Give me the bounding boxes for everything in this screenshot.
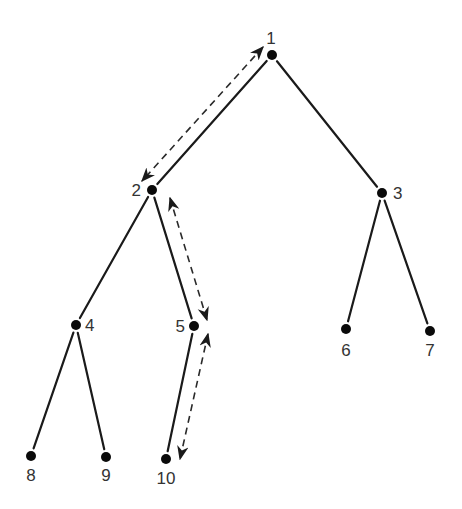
- tree-diagram: 12345678910: [0, 0, 462, 509]
- traversal-arrow-5-10: [180, 334, 208, 459]
- edge-3-6: [348, 201, 380, 322]
- node-label: 5: [176, 317, 185, 336]
- edge-4-8: [34, 333, 74, 449]
- edge-1-2: [157, 61, 266, 184]
- node-dot: [147, 185, 157, 195]
- node-label: 6: [341, 341, 350, 360]
- node-label: 4: [85, 316, 94, 335]
- tree-node-1: 1: [266, 29, 277, 60]
- node-label: 3: [393, 184, 402, 203]
- node-dot: [425, 326, 435, 336]
- node-dot: [377, 188, 387, 198]
- node-label: 2: [132, 181, 141, 200]
- edge-4-9: [78, 333, 104, 449]
- tree-node-2: 2: [132, 181, 157, 200]
- node-dot: [189, 321, 199, 331]
- tree-node-6: 6: [341, 324, 351, 360]
- tree-edges: [34, 61, 428, 451]
- traversal-arrow-1-2: [142, 47, 263, 181]
- traversal-arrows: [142, 47, 263, 459]
- node-dot: [161, 454, 171, 464]
- node-label: 9: [101, 466, 110, 485]
- tree-node-9: 9: [101, 452, 111, 485]
- node-label: 7: [425, 341, 434, 360]
- node-label: 10: [157, 469, 176, 488]
- tree-node-10: 10: [157, 454, 176, 488]
- tree-node-8: 8: [26, 451, 36, 485]
- tree-nodes: 12345678910: [26, 29, 435, 488]
- edge-2-4: [80, 197, 148, 318]
- edge-2-5: [154, 198, 191, 319]
- node-dot: [341, 324, 351, 334]
- node-dot: [101, 452, 111, 462]
- tree-node-5: 5: [176, 317, 199, 336]
- node-dot: [267, 50, 277, 60]
- node-label: 1: [266, 29, 275, 48]
- edge-1-3: [277, 61, 377, 186]
- tree-node-7: 7: [425, 326, 435, 360]
- tree-node-4: 4: [71, 316, 94, 335]
- edge-5-10: [168, 334, 193, 451]
- traversal-arrow-2-5: [170, 198, 207, 320]
- node-label: 8: [26, 466, 35, 485]
- node-dot: [71, 320, 81, 330]
- node-dot: [26, 451, 36, 461]
- edge-3-7: [385, 201, 428, 324]
